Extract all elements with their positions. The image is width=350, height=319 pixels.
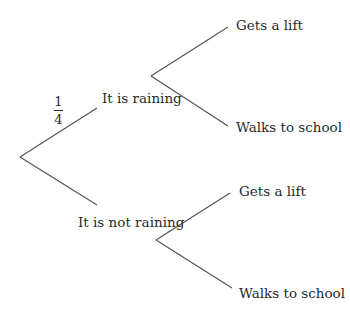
fraction-bar — [54, 110, 63, 111]
tree-diagram: 1 4 It is raining It is not raining Gets… — [0, 0, 350, 319]
label-raining: It is raining — [102, 92, 182, 106]
label-raining-walks: Walks to school — [236, 121, 342, 135]
probability-raining: 1 4 — [54, 95, 63, 126]
label-not-raining-walks: Walks to school — [239, 287, 345, 301]
fraction-numerator: 1 — [54, 95, 62, 108]
fraction-denominator: 4 — [54, 113, 62, 126]
tree-branches — [0, 0, 350, 319]
label-raining-lift: Gets a lift — [236, 19, 303, 33]
branch-not-raining — [20, 157, 97, 205]
branch-raining-lift — [151, 27, 228, 76]
branch-not-raining-walks — [156, 240, 232, 288]
label-not-raining-lift: Gets a lift — [239, 185, 306, 199]
label-not-raining: It is not raining — [78, 216, 184, 230]
